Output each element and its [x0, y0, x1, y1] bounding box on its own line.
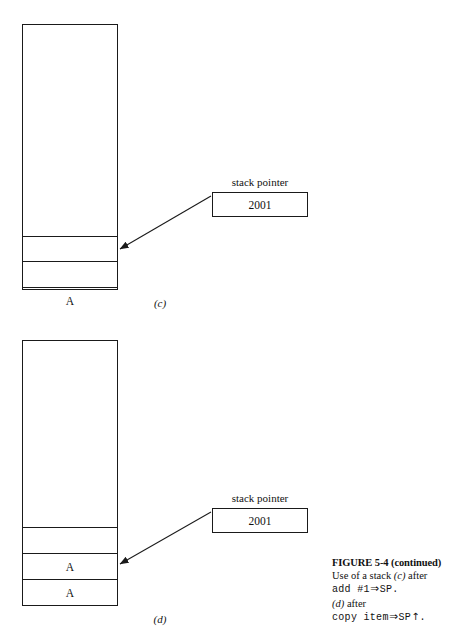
- caption-line-4-period: .: [420, 612, 426, 623]
- caption-line-1-post: after: [405, 570, 427, 581]
- caption-line-2: add #1⇒SP.: [332, 582, 471, 596]
- stack-cell-c-2: [23, 261, 117, 287]
- caption-line-1-ref: (c): [394, 570, 406, 581]
- figure-caption: FIGURE 5-4 (continued) Use of a stack (c…: [332, 556, 471, 624]
- stack-cell-d-2-value: A: [66, 561, 75, 573]
- caption-line-3-post: after: [344, 598, 366, 609]
- caption-line-4-code: copy item: [332, 612, 389, 623]
- rightwards-double-arrow-icon: ⇒: [370, 582, 380, 594]
- caption-line-3: (d) after: [332, 597, 471, 610]
- caption-line-4-tail: SP: [399, 612, 412, 623]
- stack-cell-c-0: [23, 25, 117, 236]
- stack-cell-d-0: [23, 341, 117, 527]
- caption-line-2-tail: SP.: [380, 584, 399, 595]
- stack-pointer-label-c: stack pointer: [212, 176, 308, 188]
- caption-line-1: Use of a stack (c) after: [332, 569, 471, 582]
- caption-title: FIGURE 5-4 (continued): [332, 556, 471, 569]
- stack-cell-c-3-value: A: [66, 295, 75, 307]
- caption-line-4: copy item⇒SP↑.: [332, 610, 471, 624]
- figure-5-4-continued: A stack pointer 2001 (c) A A stac: [0, 0, 471, 631]
- stack-diagram-c: A: [22, 24, 118, 290]
- caption-line-2-code: add #1: [332, 584, 370, 595]
- stack-diagram-d: A A: [22, 340, 118, 606]
- stack-cell-d-2: A: [23, 553, 117, 579]
- caption-line-3-ref: (d): [332, 598, 344, 609]
- stack-cell-d-1: [23, 527, 117, 553]
- subfigure-label-d: (d): [140, 613, 180, 625]
- stack-pointer-value-c: 2001: [249, 199, 272, 211]
- stack-pointer-value-d: 2001: [249, 515, 272, 527]
- stack-pointer-label-d: stack pointer: [212, 492, 308, 504]
- subfigure-label-c: (c): [140, 297, 180, 309]
- stack-cell-d-3-value: A: [66, 587, 75, 599]
- upwards-arrow-icon: ↑: [411, 611, 419, 622]
- stack-pointer-group-c: stack pointer 2001: [212, 192, 308, 217]
- stack-pointer-group-d: stack pointer 2001: [212, 508, 308, 533]
- caption-line-1-pre: Use of a stack: [332, 570, 394, 581]
- stack-pointer-value-box-c: 2001: [212, 192, 308, 217]
- stack-pointer-value-box-d: 2001: [212, 508, 308, 533]
- stack-cell-c-1: [23, 236, 117, 261]
- stack-cell-c-3: A: [23, 287, 117, 313]
- stack-cell-d-3: A: [23, 579, 117, 605]
- rightwards-double-arrow-icon: ⇒: [389, 610, 399, 622]
